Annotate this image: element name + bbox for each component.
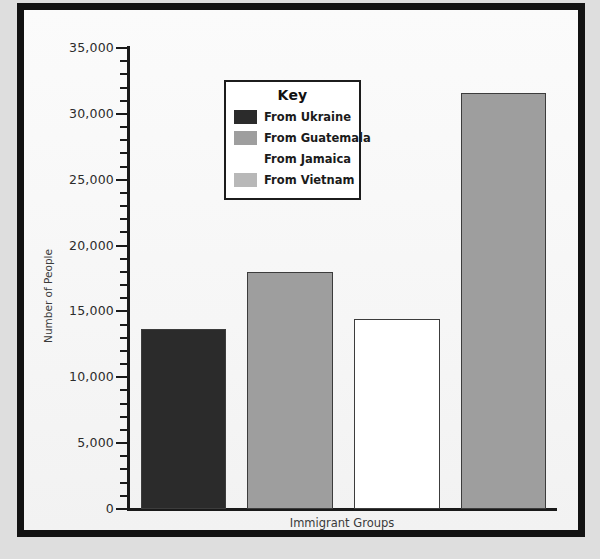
bar-chart: 05,00010,00015,00020,00025,00030,00035,0… <box>24 10 592 544</box>
y-axis-tick-label: 25,000 <box>44 172 114 187</box>
legend-entry-label: From Guatemala <box>264 131 371 145</box>
y-axis-minor-tick <box>120 87 127 89</box>
y-axis-tick-label: 30,000 <box>44 106 114 121</box>
figure-frame: 05,00010,00015,00020,00025,00030,00035,0… <box>17 3 585 537</box>
y-axis-minor-tick <box>120 192 127 194</box>
y-axis-minor-tick <box>120 231 127 233</box>
legend-swatch-icon <box>234 110 257 124</box>
legend-box: Key From UkraineFrom GuatemalaFrom Jamai… <box>224 80 361 200</box>
y-axis-tick-label: 10,000 <box>44 369 114 384</box>
y-axis-major-tick <box>116 376 127 378</box>
y-axis-minor-tick <box>120 258 127 260</box>
bar <box>354 319 439 509</box>
y-axis-minor-tick <box>120 205 127 207</box>
y-axis-major-tick <box>116 113 127 115</box>
legend-entry: From Ukraine <box>234 106 351 127</box>
legend-swatch-icon <box>234 131 257 145</box>
y-axis-minor-tick <box>120 389 127 391</box>
y-axis-major-tick <box>116 508 127 510</box>
legend-entry: From Guatemala <box>234 127 351 148</box>
y-axis-tick-label: 20,000 <box>44 238 114 253</box>
y-axis-minor-tick <box>120 297 127 299</box>
y-axis-minor-tick <box>120 126 127 128</box>
y-axis-minor-tick <box>120 429 127 431</box>
y-axis-minor-tick <box>120 350 127 352</box>
legend-title: Key <box>234 87 351 103</box>
y-axis-minor-tick <box>120 166 127 168</box>
y-axis-title: Number of People <box>42 226 54 366</box>
y-axis-minor-tick <box>120 60 127 62</box>
legend-entry-label: From Jamaica <box>264 152 351 166</box>
y-axis-minor-tick <box>120 416 127 418</box>
y-axis-minor-tick <box>120 495 127 497</box>
figure-page: 05,00010,00015,00020,00025,00030,00035,0… <box>0 0 600 559</box>
y-axis-minor-tick <box>120 284 127 286</box>
y-axis-minor-tick <box>120 482 127 484</box>
y-axis-minor-tick <box>120 139 127 141</box>
y-axis-line <box>127 46 130 511</box>
y-axis-minor-tick <box>120 337 127 339</box>
y-axis-minor-tick <box>120 218 127 220</box>
y-axis-tick-label: 0 <box>44 501 114 516</box>
y-axis-minor-tick <box>120 271 127 273</box>
legend-swatch-icon <box>234 152 257 166</box>
legend-entry-label: From Ukraine <box>264 110 351 124</box>
y-axis-tick-label: 15,000 <box>44 303 114 318</box>
y-axis-minor-tick <box>120 152 127 154</box>
legend-swatch-icon <box>234 173 257 187</box>
y-axis-minor-tick <box>120 455 127 457</box>
y-axis-tick-label: 5,000 <box>44 435 114 450</box>
legend-entry-label: From Vietnam <box>264 173 355 187</box>
legend-entry: From Jamaica <box>234 148 351 169</box>
y-axis-minor-tick <box>120 324 127 326</box>
x-axis-title: Immigrant Groups <box>127 516 557 530</box>
legend-entries: From UkraineFrom GuatemalaFrom JamaicaFr… <box>234 106 351 190</box>
bar <box>461 93 546 509</box>
y-axis-major-tick <box>116 442 127 444</box>
y-axis-minor-tick <box>120 403 127 405</box>
bar <box>247 272 332 509</box>
y-axis-minor-tick <box>120 100 127 102</box>
y-axis-major-tick <box>116 245 127 247</box>
y-axis-minor-tick <box>120 363 127 365</box>
y-axis-minor-tick <box>120 73 127 75</box>
y-axis-minor-tick <box>120 468 127 470</box>
y-axis-major-tick <box>116 179 127 181</box>
y-axis-tick-label: 35,000 <box>44 40 114 55</box>
bar <box>141 329 226 509</box>
legend-entry: From Vietnam <box>234 169 351 190</box>
y-axis-major-tick <box>116 47 127 49</box>
y-axis-major-tick <box>116 310 127 312</box>
